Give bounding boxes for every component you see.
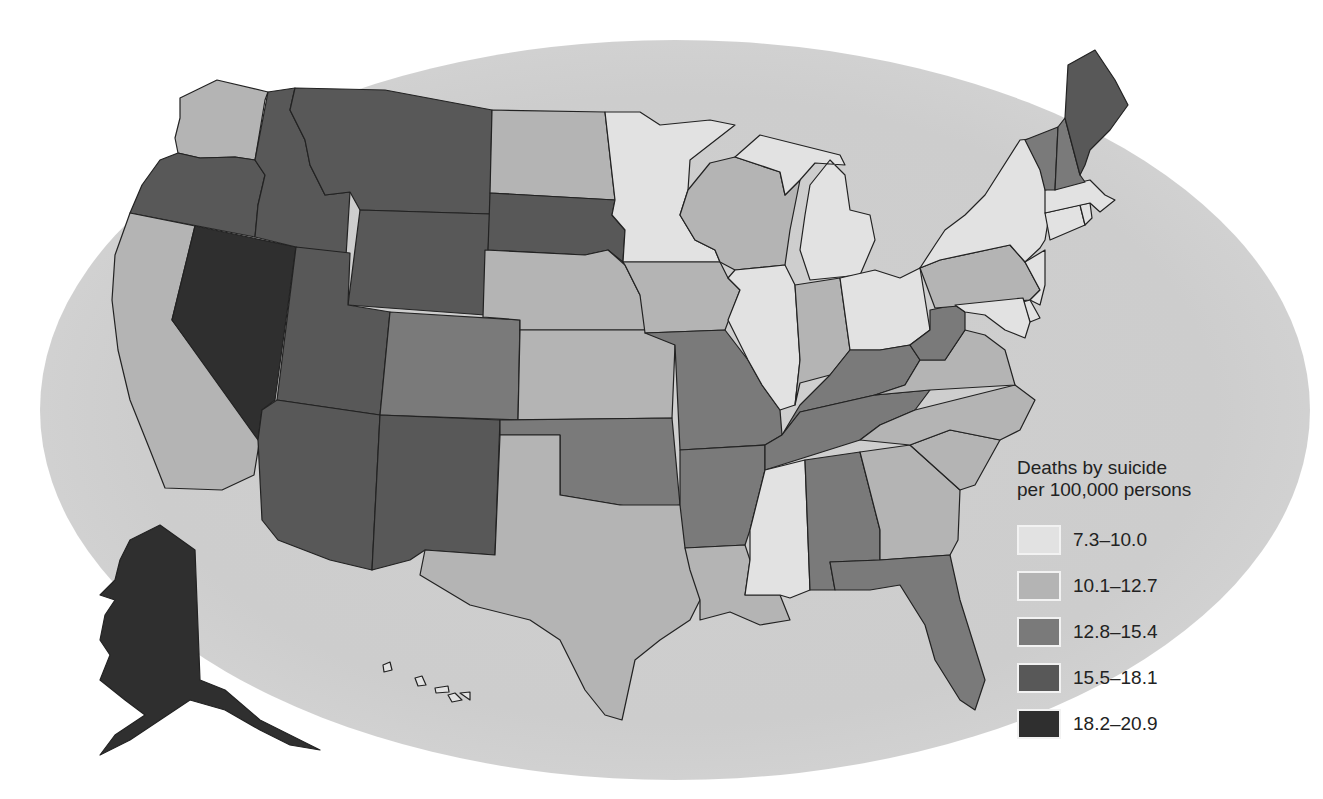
legend-swatch bbox=[1017, 709, 1061, 739]
legend-label: 7.3–10.0 bbox=[1073, 529, 1147, 551]
legend-swatch bbox=[1017, 663, 1061, 693]
legend-title: Deaths by suicide per 100,000 persons bbox=[1017, 457, 1309, 501]
legend-title-line-2: per 100,000 persons bbox=[1017, 479, 1309, 501]
legend-item: 18.2–20.9 bbox=[1079, 701, 1309, 747]
legend-label: 18.2–20.9 bbox=[1073, 713, 1158, 735]
legend: Deaths by suicide per 100,000 persons 7.… bbox=[1079, 457, 1309, 747]
legend-swatch bbox=[1017, 617, 1061, 647]
state-NY bbox=[920, 138, 1050, 268]
state-WA bbox=[175, 80, 268, 160]
legend-title-line-1: Deaths by suicide bbox=[1017, 457, 1309, 479]
legend-item: 10.1–12.7 bbox=[1079, 563, 1309, 609]
state-KS bbox=[518, 330, 675, 420]
legend-swatch bbox=[1017, 525, 1061, 555]
state-OH bbox=[840, 268, 930, 350]
state-CO bbox=[380, 312, 520, 420]
legend-label: 12.8–15.4 bbox=[1073, 621, 1158, 643]
state-HI bbox=[383, 662, 470, 702]
legend-label: 10.1–12.7 bbox=[1073, 575, 1158, 597]
legend-item: 15.5–18.1 bbox=[1079, 655, 1309, 701]
state-WY bbox=[348, 210, 490, 315]
state-AZ bbox=[258, 400, 380, 570]
legend-item: 7.3–10.0 bbox=[1079, 517, 1309, 563]
state-AK bbox=[100, 525, 320, 755]
state-ND bbox=[490, 110, 615, 200]
legend-swatch bbox=[1017, 571, 1061, 601]
state-ME bbox=[1065, 50, 1128, 175]
legend-label: 15.5–18.1 bbox=[1073, 667, 1158, 689]
state-FL bbox=[830, 555, 985, 710]
state-NM bbox=[372, 415, 500, 570]
legend-item: 12.8–15.4 bbox=[1079, 609, 1309, 655]
